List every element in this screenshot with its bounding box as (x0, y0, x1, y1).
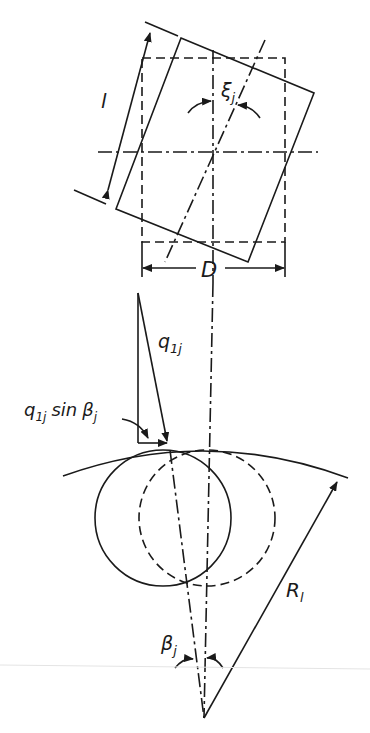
load-label: q1j (158, 330, 182, 356)
roller-section-solid (95, 450, 231, 586)
length-label: l (101, 89, 107, 113)
component-pointer-arrow (122, 419, 148, 438)
length-ext-line-bottom (74, 190, 106, 204)
skew-angle-arc-right (238, 105, 260, 118)
load-triangle: q1j q1jsinβj (24, 293, 182, 443)
skew-angle-label: ξj (220, 79, 236, 105)
vertical-centerline-lower (204, 283, 213, 718)
skew-angle-arc-left (188, 101, 211, 113)
top-view: l ξj D (74, 22, 318, 283)
tilt-angle-label: βj (160, 632, 177, 658)
load-vector-q1j (138, 293, 167, 441)
tilt-angle-arc-right (207, 658, 223, 668)
length-dimension-line (108, 33, 150, 190)
diameter-label: D (201, 258, 217, 282)
tilted-axis-lower (170, 450, 204, 718)
scan-artifact-line (0, 665, 370, 669)
skewed-roller-axis (165, 40, 265, 262)
radius-line (204, 482, 337, 718)
load-component-label: q1jsinβj (24, 399, 98, 424)
roller-skew-diagram: l ξj D q1j q1jsinβj (0, 0, 370, 733)
radius-label: Rl (286, 578, 304, 605)
